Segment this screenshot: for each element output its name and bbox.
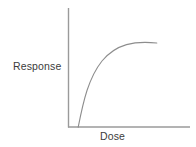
dose-response-figure: Response Dose xyxy=(0,0,196,147)
x-axis-label: Dose xyxy=(100,131,125,142)
y-axis-label: Response xyxy=(13,61,61,72)
dose-response-curve xyxy=(78,42,157,127)
chart-canvas xyxy=(0,0,196,147)
